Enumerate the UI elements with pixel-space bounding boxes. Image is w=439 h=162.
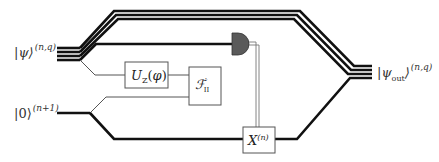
- psi-input-bundle: [57, 48, 80, 60]
- psi-out-ket-close: ⟩: [405, 65, 410, 80]
- x-output-wire: [275, 78, 372, 139]
- psi-out-subscript: out: [392, 74, 405, 83]
- psi-input-label: |ψ⟩(n,q): [14, 42, 56, 61]
- zero-ket: |0⟩: [14, 106, 32, 121]
- zero-superscript: (n+1): [33, 103, 59, 113]
- phase-wire: [80, 60, 125, 75]
- measured-wire: [80, 44, 232, 60]
- bypass-wire-2: [80, 15, 372, 70]
- psi-ket: |ψ⟩: [14, 45, 34, 60]
- gate-x: X(n): [243, 127, 275, 153]
- zero-input-label: |0⟩(n+1): [14, 103, 59, 122]
- psi-out-superscript: (n,q): [411, 62, 432, 72]
- bypass-wire-bundle: [80, 11, 372, 74]
- ancilla-thick-branch: [90, 113, 243, 139]
- svg-text:UZ(φ): UZ(φ): [131, 68, 167, 85]
- ancilla-thin-branch: [90, 97, 189, 113]
- classical-wire: [244, 42, 259, 127]
- psi-superscript: (n,q): [35, 42, 56, 52]
- gate-uz: UZ(φ): [125, 62, 168, 88]
- measurement-meter-icon: [232, 33, 249, 55]
- psi-out-label: |ψout⟩(n,q): [377, 62, 432, 83]
- circuit-diagram: UZ(φ) ℱ′II X(n): [0, 0, 439, 162]
- gate-fii: ℱ′II: [189, 67, 221, 105]
- psi-out-ket: |ψ: [377, 65, 392, 80]
